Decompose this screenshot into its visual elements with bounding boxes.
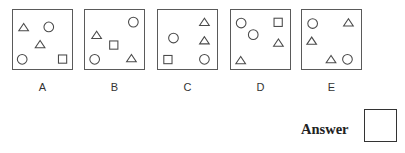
option-a-figure <box>13 10 72 69</box>
triangle-icon <box>19 24 29 31</box>
triangle-icon <box>344 19 354 26</box>
triangle-icon <box>200 37 210 44</box>
square-icon <box>110 41 118 49</box>
option-d-figure <box>231 10 290 69</box>
circle-icon <box>248 30 258 40</box>
option-d-label: D <box>230 81 291 93</box>
option-b-panel[interactable] <box>84 9 145 70</box>
option-c-panel[interactable] <box>157 9 218 70</box>
answer-input-box[interactable] <box>364 109 397 142</box>
triangle-icon <box>307 37 317 44</box>
triangle-icon <box>326 55 336 62</box>
option-d-panel[interactable] <box>230 9 291 70</box>
circle-icon <box>200 54 210 64</box>
circle-icon <box>17 54 27 64</box>
square-icon <box>274 18 282 26</box>
option-e-figure <box>302 10 361 69</box>
circle-icon <box>343 54 353 64</box>
square-icon <box>58 55 66 63</box>
triangle-icon <box>200 18 210 25</box>
option-c-label: C <box>157 81 218 93</box>
circle-icon <box>236 18 246 28</box>
square-icon <box>164 55 172 63</box>
option-b-label: B <box>84 81 145 93</box>
option-e-label: E <box>301 81 362 93</box>
circle-icon <box>169 33 179 43</box>
option-a-label: A <box>12 81 73 93</box>
answer-label: Answer <box>301 121 349 138</box>
triangle-icon <box>236 56 246 63</box>
circle-icon <box>44 22 54 32</box>
option-a-panel[interactable] <box>12 9 73 70</box>
triangle-icon <box>274 39 284 46</box>
option-c-figure <box>158 10 217 69</box>
circle-icon <box>308 19 318 29</box>
triangle-icon <box>35 40 45 47</box>
option-b-figure <box>85 10 144 69</box>
triangle-icon <box>92 31 102 38</box>
circle-icon <box>129 17 139 27</box>
option-e-panel[interactable] <box>301 9 362 70</box>
triangle-icon <box>127 54 137 61</box>
circle-icon <box>90 54 100 64</box>
